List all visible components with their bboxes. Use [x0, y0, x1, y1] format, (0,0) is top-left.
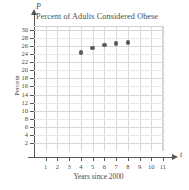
gridline-horizontal [34, 78, 163, 79]
gridline-vertical [140, 26, 141, 151]
x-axis-line [28, 157, 175, 158]
chart-figure: Percent of Adults Considered Obese P t 2… [0, 0, 189, 190]
y-tick-mark [30, 143, 34, 144]
y-tick-mark [30, 103, 34, 104]
gridline-vertical [151, 26, 152, 151]
y-tick-label: 28 [6, 34, 28, 41]
y-tick-label: 6 [6, 123, 28, 130]
data-point [102, 43, 107, 48]
y-tick-mark [30, 135, 34, 136]
y-tick-label: 30 [6, 26, 28, 33]
x-tick-mark [69, 157, 70, 161]
x-axis-title: Years since 2000 [34, 172, 163, 181]
y-tick-mark [30, 127, 34, 128]
y-tick-mark [30, 78, 34, 79]
x-tick-mark [46, 157, 47, 161]
gridline-vertical [69, 26, 70, 151]
y-tick-mark [30, 30, 34, 31]
gridline-horizontal [34, 127, 163, 128]
y-tick-mark [30, 70, 34, 71]
gridline-vertical [163, 26, 164, 151]
data-point [126, 40, 131, 45]
gridline-horizontal [34, 62, 163, 63]
x-tick-label: 11 [155, 163, 171, 170]
y-axis-title: Percent [13, 56, 20, 116]
chart-title: Percent of Adults Considered Obese [36, 12, 158, 21]
y-tick-mark [30, 119, 34, 120]
y-tick-mark [30, 54, 34, 55]
x-axis-variable-label: t [180, 150, 182, 159]
y-tick-mark [30, 86, 34, 87]
plot-border-top [34, 26, 163, 27]
x-axis-arrow-icon [172, 154, 178, 160]
gridline-horizontal [34, 86, 163, 87]
x-tick-mark [93, 157, 94, 161]
y-tick-mark [30, 38, 34, 39]
x-tick-mark [57, 157, 58, 161]
x-tick-mark [163, 157, 164, 161]
y-tick-mark [30, 62, 34, 63]
gridline-vertical [93, 26, 94, 151]
x-tick-mark [81, 157, 82, 161]
x-tick-mark [116, 157, 117, 161]
y-tick-label: 8 [6, 115, 28, 122]
gridline-vertical [57, 26, 58, 151]
gridline-horizontal [34, 38, 163, 39]
gridline-horizontal [34, 103, 163, 104]
y-tick-label: 2 [6, 139, 28, 146]
gridline-horizontal [34, 30, 163, 31]
data-point [90, 46, 95, 51]
gridline-vertical [46, 26, 47, 151]
x-tick-mark [104, 157, 105, 161]
x-tick-mark [128, 157, 129, 161]
gridline-horizontal [34, 143, 163, 144]
gridline-horizontal [34, 95, 163, 96]
gridline-vertical [81, 26, 82, 151]
x-tick-mark [151, 157, 152, 161]
y-tick-label: 4 [6, 131, 28, 138]
gridline-horizontal [34, 135, 163, 136]
data-point [79, 50, 84, 55]
gridline-horizontal [34, 111, 163, 112]
gridline-horizontal [34, 54, 163, 55]
y-tick-label: 26 [6, 42, 28, 49]
y-axis-arrow-icon [31, 9, 37, 15]
plot-area [34, 26, 163, 151]
y-tick-mark [30, 95, 34, 96]
gridline-horizontal [34, 70, 163, 71]
gridline-horizontal [34, 119, 163, 120]
x-tick-mark [140, 157, 141, 161]
gridline-horizontal [34, 46, 163, 47]
y-tick-mark [30, 111, 34, 112]
y-tick-mark [30, 46, 34, 47]
